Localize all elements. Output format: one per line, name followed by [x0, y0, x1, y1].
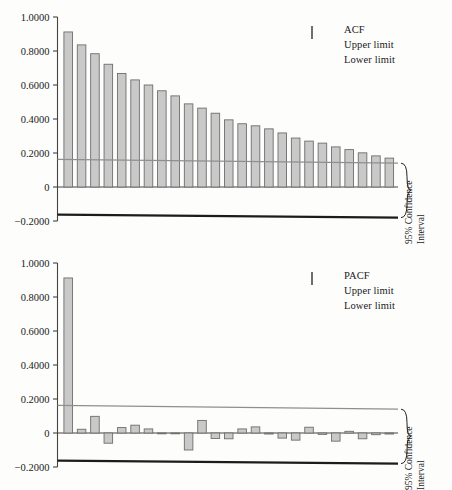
- pacf-y-tick-label: 0.2000: [21, 394, 50, 405]
- acf-bar: [318, 143, 327, 187]
- pacf-bar: [184, 433, 193, 450]
- pacf-bar: [265, 433, 274, 434]
- acf-y-tick-label: 0: [44, 182, 49, 193]
- acf-bar: [278, 133, 287, 187]
- pacf-bar: [291, 433, 300, 440]
- acf-y-tick-label: −0.2000: [15, 216, 50, 227]
- acf-bar: [385, 158, 394, 187]
- lower-limit-line-icon: [311, 301, 337, 310]
- pacf-ci-text: 95% Confidence Interval: [404, 394, 427, 490]
- acf-bar: [117, 73, 126, 187]
- pacf-y-tick-label: 0: [44, 428, 49, 439]
- pacf-bar: [278, 433, 287, 438]
- pacf-legend: PACF Upper limit Lower limit: [311, 268, 395, 313]
- pacf-bar: [144, 429, 153, 433]
- acf-legend: ACF Upper limit Lower limit: [311, 22, 395, 67]
- legend-label-acf: ACF: [344, 22, 365, 37]
- pacf-bar: [372, 433, 381, 435]
- pacf-bar: [117, 428, 126, 433]
- pacf-bar: [91, 416, 100, 433]
- acf-y-tick-label: 0.6000: [21, 80, 50, 91]
- pacf-y-tick-label: 0.6000: [21, 326, 50, 337]
- acf-bar: [144, 85, 153, 187]
- pacf-bar: [358, 433, 367, 439]
- pacf-y-tick-label: 1.0000: [21, 258, 50, 269]
- acf-bar: [224, 120, 233, 187]
- pacf-bar: [385, 433, 394, 434]
- acf-bar: [104, 64, 113, 187]
- pacf-ci-line-1: 95% Confidence: [404, 394, 416, 490]
- pacf-confidence-interval-annotation: 95% Confidence Interval: [404, 394, 450, 490]
- pacf-bar: [198, 420, 207, 433]
- acf-bar: [158, 91, 167, 187]
- pacf-bar: [238, 429, 247, 433]
- acf-y-tick-label: 0.2000: [21, 148, 50, 159]
- acf-confidence-interval-annotation: 95% Confidence Interval: [404, 148, 450, 244]
- pacf-bar-swatch-icon: [311, 271, 337, 280]
- acf-bar: [265, 129, 274, 187]
- acf-bar: [372, 156, 381, 187]
- acf-bar: [64, 32, 73, 187]
- acf-bar: [91, 54, 100, 187]
- acf-bar-swatch-icon: [311, 25, 337, 34]
- pacf-bar: [345, 431, 354, 433]
- legend-label-lower-limit: Lower limit: [344, 52, 395, 67]
- acf-pacf-figure: 1.00000.80000.60000.40000.20000−0.2000 A…: [0, 0, 452, 490]
- pacf-y-tick-label: 0.8000: [21, 292, 50, 303]
- acf-bar: [238, 124, 247, 187]
- pacf-upper-limit-line: [58, 405, 399, 409]
- acf-y-tick-label: 1.0000: [21, 12, 50, 23]
- pacf-bar: [104, 433, 113, 443]
- pacf-bar: [131, 425, 140, 433]
- legend-entry-lower-limit: Lower limit: [311, 298, 395, 313]
- legend-label-pacf: PACF: [344, 268, 370, 283]
- acf-bar: [77, 45, 86, 187]
- acf-bar: [131, 80, 140, 187]
- acf-ci-line-2: Interval: [416, 148, 428, 244]
- upper-limit-line-icon: [311, 286, 337, 295]
- acf-y-tick-label: 0.4000: [21, 114, 50, 125]
- acf-bar: [198, 108, 207, 187]
- acf-bar: [358, 153, 367, 187]
- pacf-y-tick-label: 0.4000: [21, 360, 50, 371]
- acf-bar: [184, 104, 193, 187]
- acf-bar: [251, 126, 260, 187]
- pacf-bar: [224, 433, 233, 439]
- acf-bar: [332, 147, 341, 187]
- pacf-bar: [305, 427, 314, 433]
- acf-bar: [171, 96, 180, 187]
- legend-label-upper-limit: Upper limit: [344, 37, 394, 52]
- acf-bar: [211, 113, 220, 187]
- pacf-bar: [64, 278, 73, 433]
- legend-entry-pacf: PACF: [311, 268, 395, 283]
- legend-entry-acf: ACF: [311, 22, 395, 37]
- pacf-bar: [332, 433, 341, 441]
- pacf-bar: [171, 433, 180, 434]
- pacf-bar: [318, 433, 327, 434]
- pacf-bar: [251, 427, 260, 433]
- pacf-lower-limit-line: [58, 461, 399, 464]
- acf-bar: [305, 141, 314, 187]
- pacf-bar: [77, 429, 86, 433]
- pacf-chart-panel: 1.00000.80000.60000.40000.20000−0.2000 P…: [0, 248, 452, 488]
- acf-chart-panel: 1.00000.80000.60000.40000.20000−0.2000 A…: [0, 2, 452, 242]
- acf-ci-line-1: 95% Confidence: [404, 148, 416, 244]
- legend-entry-lower-limit: Lower limit: [311, 52, 395, 67]
- lower-limit-line-icon: [311, 55, 337, 64]
- acf-ci-text: 95% Confidence Interval: [404, 148, 427, 244]
- pacf-y-tick-label: −0.2000: [15, 462, 50, 473]
- pacf-ci-line-2: Interval: [416, 394, 428, 490]
- acf-lower-limit-line: [58, 215, 399, 218]
- legend-label-upper-limit: Upper limit: [344, 283, 394, 298]
- pacf-bar: [158, 433, 167, 434]
- upper-limit-line-icon: [311, 40, 337, 49]
- legend-entry-upper-limit: Upper limit: [311, 283, 395, 298]
- legend-entry-upper-limit: Upper limit: [311, 37, 395, 52]
- legend-label-lower-limit: Lower limit: [344, 298, 395, 313]
- acf-y-tick-label: 0.8000: [21, 46, 50, 57]
- pacf-bar: [211, 433, 220, 438]
- acf-bar: [345, 150, 354, 187]
